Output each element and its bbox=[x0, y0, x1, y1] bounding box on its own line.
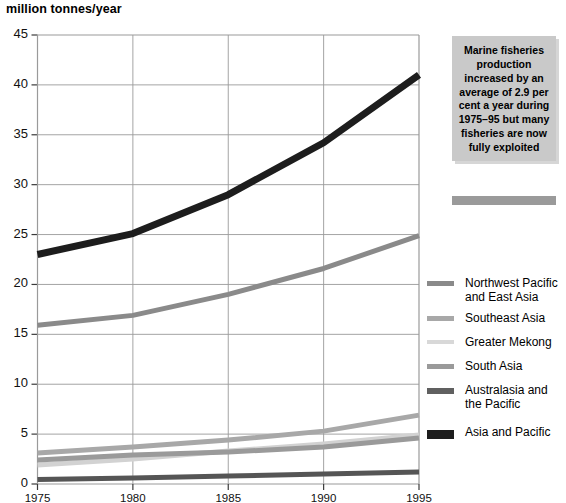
y-axis-label: 20 bbox=[2, 275, 28, 290]
legend-color-swatch bbox=[427, 430, 454, 439]
y-axis-label: 30 bbox=[2, 176, 28, 191]
legend-color-swatch bbox=[427, 281, 454, 286]
chart-legend: Northwest Pacific and East AsiaSoutheast… bbox=[427, 276, 566, 449]
legend-item[interactable]: South Asia bbox=[427, 359, 566, 376]
y-axis-label: 40 bbox=[2, 76, 28, 91]
y-axis-label: 10 bbox=[2, 375, 28, 390]
legend-item-label: Greater Mekong bbox=[465, 335, 552, 349]
legend-item-label: Asia and Pacific bbox=[465, 425, 550, 439]
legend-item[interactable]: Asia and Pacific bbox=[427, 425, 566, 442]
y-axis-label: 15 bbox=[2, 325, 28, 340]
legend-item[interactable]: Northwest Pacific and East Asia bbox=[427, 276, 566, 304]
legend-item-label: South Asia bbox=[465, 359, 522, 373]
callout-box: Marine fisheries production increased by… bbox=[452, 36, 556, 161]
y-axis-label: 5 bbox=[2, 425, 28, 440]
x-axis-label: 1975 bbox=[15, 492, 61, 503]
legend-color-swatch bbox=[427, 340, 454, 344]
callout-text: Marine fisheries production increased by… bbox=[459, 44, 549, 153]
y-axis-label: 25 bbox=[2, 226, 28, 241]
legend-item-label: Southeast Asia bbox=[465, 311, 545, 325]
x-axis-label: 1995 bbox=[396, 492, 442, 503]
legend-item-label: Australasia and the Pacific bbox=[465, 383, 548, 411]
x-axis-label: 1980 bbox=[110, 492, 156, 503]
legend-color-swatch bbox=[427, 388, 454, 394]
legend-color-swatch bbox=[427, 316, 454, 321]
legend-item[interactable]: Greater Mekong bbox=[427, 335, 566, 352]
legend-item[interactable]: Southeast Asia bbox=[427, 311, 566, 328]
legend-item-label: Northwest Pacific and East Asia bbox=[465, 276, 558, 304]
y-axis-label: 45 bbox=[2, 26, 28, 41]
callout-accent-bar bbox=[452, 196, 556, 205]
legend-color-swatch bbox=[427, 364, 454, 369]
x-axis-label: 1990 bbox=[301, 492, 347, 503]
y-axis-label: 35 bbox=[2, 126, 28, 141]
y-axis-label: 0 bbox=[2, 475, 28, 490]
legend-item[interactable]: Australasia and the Pacific bbox=[427, 383, 566, 411]
x-axis-label: 1985 bbox=[205, 492, 251, 503]
